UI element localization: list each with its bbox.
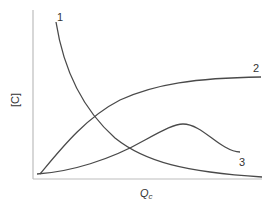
curve-1-label: 1 [57,11,63,23]
axes [33,10,262,179]
y-axis-title: [C] [9,93,21,107]
x-axis-title: Qc [140,187,153,201]
curve-3 [37,124,240,174]
curve-1 [56,22,262,177]
curve-3-label: 3 [239,156,245,168]
curve-2-label: 2 [253,62,259,74]
x-axis-title-subscript: c [149,192,153,201]
curve-2 [40,77,261,174]
concentration-vs-flow-chart: 1 2 3 [C] Qc [0,0,273,210]
